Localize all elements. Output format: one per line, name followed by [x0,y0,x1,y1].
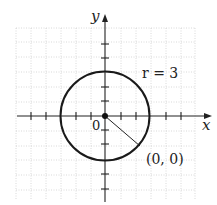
coordinate-plane: y x 0 r = 3 (0, 0) [0,0,217,205]
x-axis-label: x [202,116,211,134]
center-label: (0, 0) [146,151,184,167]
y-axis-arrow-icon [102,14,108,22]
y-axis [101,14,109,202]
x-axis [17,112,212,120]
radius-label: r = 3 [142,65,178,81]
radius-line [105,116,140,146]
center-point [102,113,108,119]
y-axis-label: y [90,7,100,25]
origin-label: 0 [92,118,100,133]
